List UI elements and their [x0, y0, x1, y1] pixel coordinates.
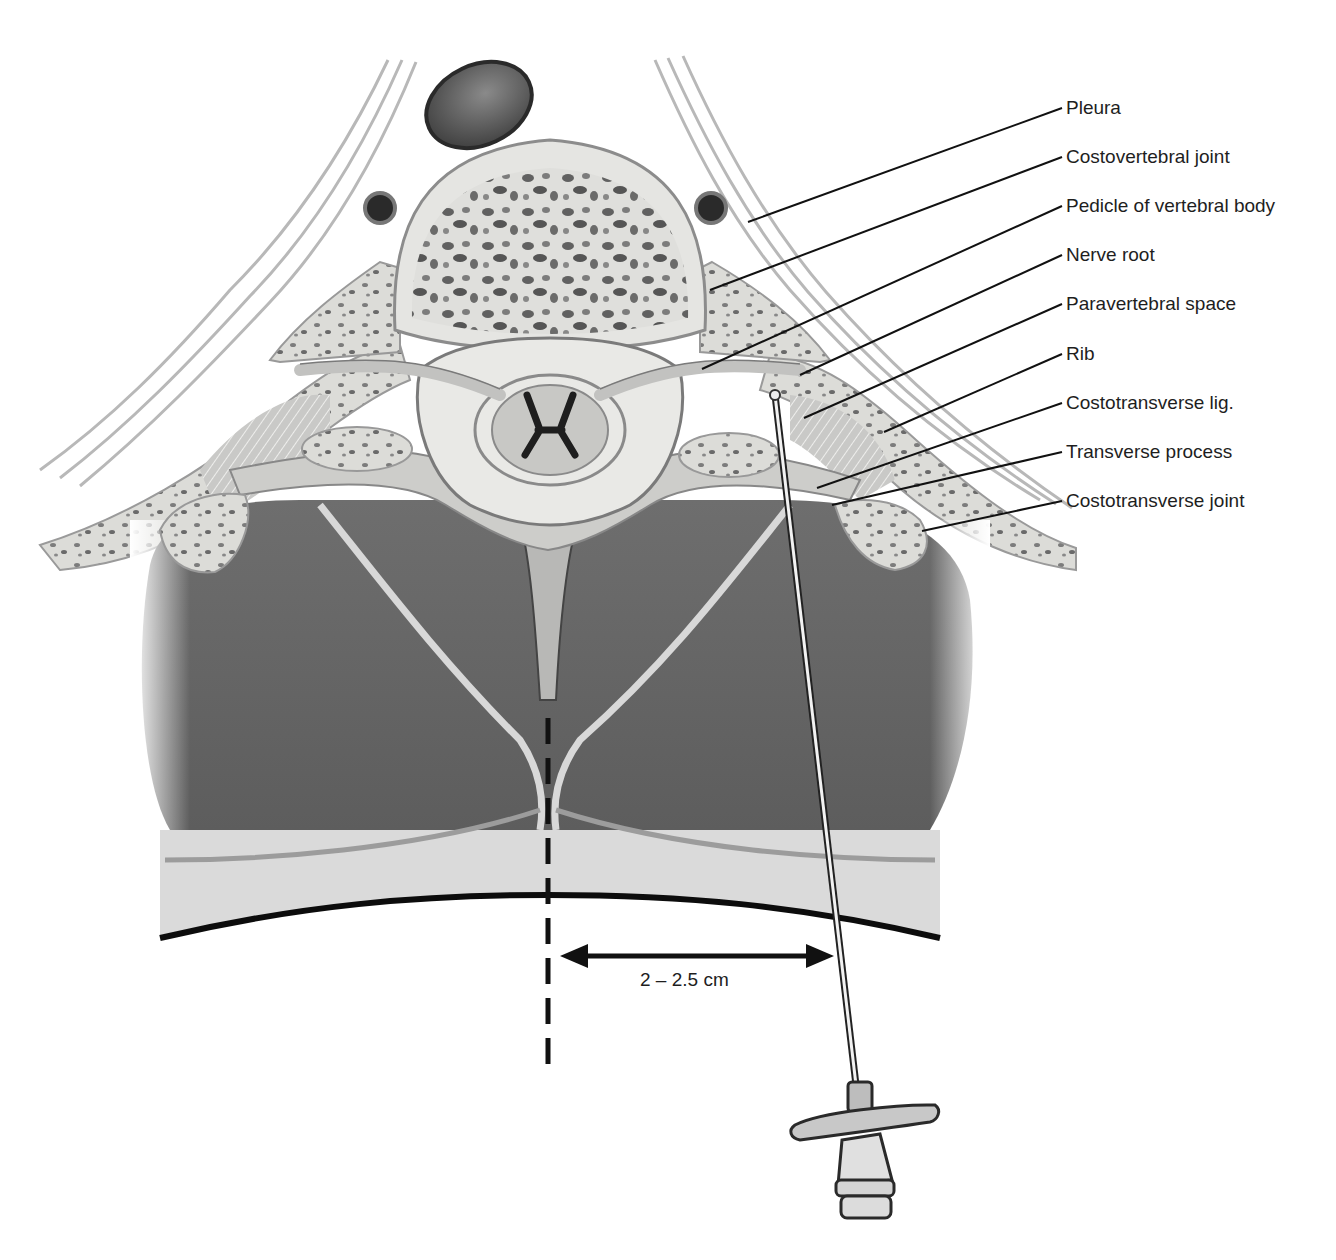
leader-line-pleura — [748, 108, 1062, 222]
label-rib: Rib — [1066, 343, 1095, 365]
label-pleura: Pleura — [1066, 97, 1121, 119]
label-costovertebral-joint: Costovertebral joint — [1066, 146, 1230, 168]
label-pedicle-of-vertebral-body: Pedicle of vertebral body — [1066, 195, 1275, 217]
transverse-process-left — [302, 427, 412, 471]
label-costotransverse-lig: Costotransverse lig. — [1066, 392, 1234, 414]
needle-hub — [791, 1082, 939, 1218]
leader-line-nerve-root — [800, 255, 1062, 375]
measurement-arrow — [560, 944, 834, 968]
pleura-lines-left — [40, 60, 416, 486]
label-paravertebral-space: Paravertebral space — [1066, 293, 1236, 315]
rib-head-left — [270, 262, 400, 362]
label-transverse-process: Transverse process — [1066, 441, 1232, 463]
leader-line-pedicle — [702, 206, 1062, 369]
transverse-process-right — [679, 433, 779, 477]
measurement-label: 2 – 2.5 cm — [640, 969, 729, 991]
label-costotransverse-joint: Costotransverse joint — [1066, 490, 1244, 512]
vessel-left — [365, 193, 395, 223]
anatomy-figure — [0, 0, 1336, 1260]
label-nerve-root: Nerve root — [1066, 244, 1155, 266]
vessel-right — [696, 193, 726, 223]
leader-line-costovertebral-joint — [710, 157, 1062, 290]
